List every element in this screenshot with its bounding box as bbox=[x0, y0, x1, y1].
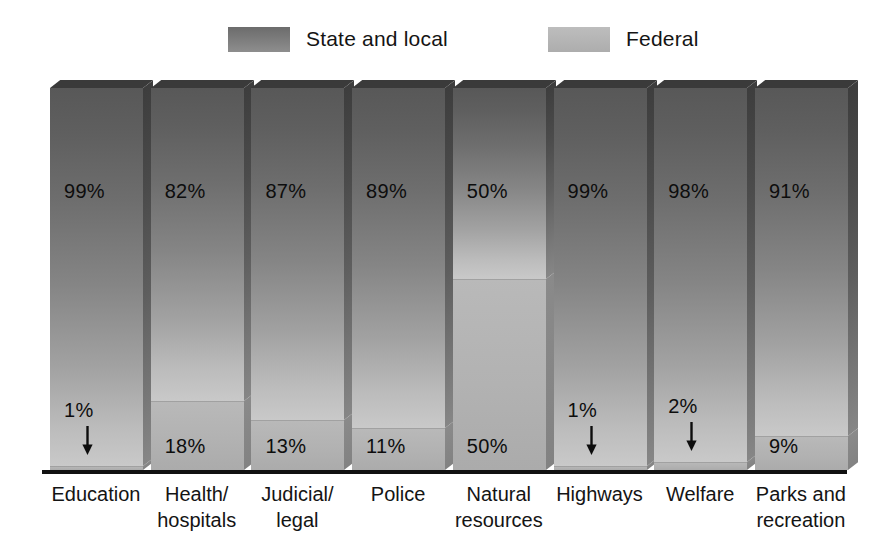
bar-segment-federal bbox=[654, 462, 747, 470]
bar-value-label-federal: 1% bbox=[568, 399, 598, 422]
category-label-line2: legal bbox=[238, 507, 356, 533]
x-axis-category-labels: EducationHealth/hospitalsJudicial/legalP… bbox=[0, 481, 887, 551]
bar-group: 91%9% bbox=[755, 78, 858, 470]
bar-value-label-federal: 11% bbox=[366, 435, 405, 458]
category-label-line2: resources bbox=[440, 507, 558, 533]
bar-value-label-federal: 50% bbox=[467, 435, 508, 458]
legend-label-state-and-local: State and local bbox=[306, 27, 448, 51]
bar-value-label-state-and-local: 99% bbox=[64, 180, 105, 203]
legend-swatch-state-and-local bbox=[228, 27, 290, 52]
bar-segment-state-and-local bbox=[352, 88, 445, 428]
bar-value-label-state-and-local: 82% bbox=[165, 180, 206, 203]
bar-top-face bbox=[755, 80, 858, 88]
bar-segment-divider bbox=[453, 279, 546, 280]
bar-segment-state-and-local bbox=[755, 88, 848, 436]
bar-value-label-state-and-local: 50% bbox=[467, 180, 508, 203]
bar-group: 89%11% bbox=[352, 78, 455, 470]
bar-segment-divider bbox=[654, 462, 747, 463]
bar-segment-state-and-local bbox=[251, 88, 344, 420]
bar-value-label-federal: 2% bbox=[668, 395, 698, 418]
category-label-line2: recreation bbox=[742, 507, 860, 533]
bar-value-label-state-and-local: 87% bbox=[265, 180, 306, 203]
bar-top-face bbox=[654, 80, 757, 88]
bar-top-face bbox=[251, 80, 354, 88]
bar-top-face bbox=[352, 80, 455, 88]
category-label-line1: Police bbox=[371, 483, 425, 505]
federal-pointer-arrow-icon bbox=[81, 426, 94, 456]
chart-legend: State and local Federal bbox=[0, 22, 887, 56]
bar-3d-box bbox=[755, 88, 848, 470]
x-axis-baseline bbox=[42, 470, 847, 474]
stacked-bar-chart: State and local Federal 99%1%82%18%87%13… bbox=[0, 0, 887, 558]
federal-pointer-arrow-icon bbox=[685, 422, 698, 452]
bar-value-label-federal: 1% bbox=[64, 399, 94, 422]
bar-value-label-state-and-local: 98% bbox=[668, 180, 709, 203]
bar-3d-box bbox=[151, 88, 244, 470]
category-label-line1: Welfare bbox=[666, 483, 735, 505]
bar-value-label-federal: 18% bbox=[165, 435, 206, 458]
bar-value-label-state-and-local: 99% bbox=[568, 180, 609, 203]
bar-group: 99%1% bbox=[50, 78, 153, 470]
legend-item-federal: Federal bbox=[548, 22, 699, 56]
category-label-line1: Highways bbox=[556, 483, 643, 505]
bar-front-face bbox=[453, 88, 546, 470]
bar-group: 98%2% bbox=[654, 78, 757, 470]
federal-pointer-arrow-icon bbox=[585, 426, 598, 456]
bar-group: 99%1% bbox=[554, 78, 657, 470]
bar-front-face bbox=[755, 88, 848, 470]
category-label-line1: Education bbox=[52, 483, 141, 505]
category-label-line1: Natural bbox=[467, 483, 531, 505]
plot-area: 99%1%82%18%87%13%89%11%50%50%99%1%98%2%9… bbox=[0, 78, 887, 470]
category-label: Parks andrecreation bbox=[742, 481, 860, 533]
bar-front-face bbox=[151, 88, 244, 470]
bar-group: 50%50% bbox=[453, 78, 556, 470]
bar-segment-divider bbox=[50, 466, 143, 467]
bar-value-label-federal: 9% bbox=[769, 435, 799, 458]
bar-segment-divider bbox=[251, 420, 344, 421]
bar-3d-box bbox=[352, 88, 445, 470]
bar-front-face bbox=[352, 88, 445, 470]
bar-group: 87%13% bbox=[251, 78, 354, 470]
bar-side-face-federal bbox=[848, 428, 858, 470]
bar-side-face-state-and-local bbox=[848, 80, 858, 435]
bar-top-face bbox=[50, 80, 153, 88]
category-label-line1: Parks and bbox=[756, 483, 846, 505]
bar-segment-divider bbox=[151, 401, 244, 402]
bar-front-face bbox=[251, 88, 344, 470]
legend-item-state-and-local: State and local bbox=[228, 22, 448, 56]
bar-segment-divider bbox=[352, 428, 445, 429]
category-label-line1: Health/ bbox=[165, 483, 228, 505]
bar-segment-state-and-local bbox=[151, 88, 244, 401]
bar-top-face bbox=[151, 80, 254, 88]
bar-value-label-federal: 13% bbox=[265, 435, 306, 458]
bar-top-face bbox=[453, 80, 556, 88]
bar-top-face bbox=[554, 80, 657, 88]
bar-3d-box bbox=[453, 88, 546, 470]
legend-swatch-federal bbox=[548, 27, 610, 52]
legend-label-federal: Federal bbox=[626, 27, 699, 51]
bar-group: 82%18% bbox=[151, 78, 254, 470]
bar-3d-box bbox=[251, 88, 344, 470]
category-label-line1: Judicial/ bbox=[261, 483, 333, 505]
bar-segment-divider bbox=[554, 466, 647, 467]
bar-value-label-state-and-local: 91% bbox=[769, 180, 810, 203]
bar-value-label-state-and-local: 89% bbox=[366, 180, 407, 203]
